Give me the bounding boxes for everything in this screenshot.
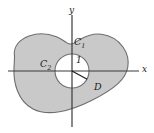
x-axis-label: x: [142, 65, 147, 74]
region-label: D: [94, 82, 102, 92]
math-figure: y x C1 C2 D 1: [0, 0, 154, 133]
figure-canvas: [0, 0, 154, 133]
y-axis-label: y: [69, 6, 74, 15]
inner-curve-label-subscript: 2: [47, 64, 51, 72]
inner-curve-label: C2: [40, 59, 51, 71]
radius-label: 1: [76, 56, 82, 65]
outer-curve-label-subscript: 1: [81, 42, 85, 50]
outer-curve-label: C1: [74, 37, 85, 49]
